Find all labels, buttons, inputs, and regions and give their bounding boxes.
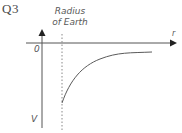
x-axis-label: r <box>172 29 175 38</box>
x-axis-arrow-icon <box>170 40 177 47</box>
y-axis-arrow-icon <box>39 29 46 36</box>
origin-label: 0 <box>34 44 40 54</box>
potential-curve <box>62 52 152 103</box>
y-axis-label: V <box>31 114 37 124</box>
potential-graph <box>0 0 182 133</box>
